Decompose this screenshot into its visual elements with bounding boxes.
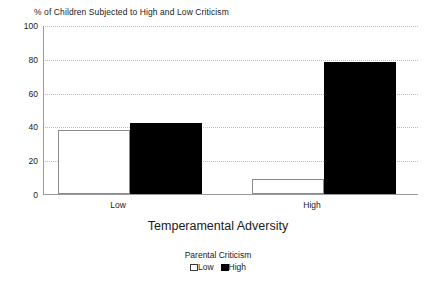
chart-title: % of Children Subjected to High and Low … bbox=[34, 7, 229, 17]
legend-swatch-low-icon bbox=[190, 264, 198, 271]
y-tick-label-40: 40 bbox=[8, 123, 38, 132]
gridline-100 bbox=[43, 26, 418, 27]
plot-area bbox=[43, 26, 418, 194]
x-tick-label-high: High bbox=[282, 200, 342, 210]
y-tick-label-0: 0 bbox=[8, 191, 38, 200]
legend-swatch-high-icon bbox=[221, 264, 229, 271]
legend-title: Parental Criticism bbox=[0, 250, 436, 261]
legend: Parental Criticism Low High bbox=[0, 250, 436, 273]
y-tick-label-60: 60 bbox=[8, 90, 38, 99]
chart-screenshot: % of Children Subjected to High and Low … bbox=[0, 0, 436, 290]
x-axis-line bbox=[43, 194, 418, 195]
bar-high-adversity-high-criticism bbox=[324, 62, 396, 194]
y-tick-label-100: 100 bbox=[8, 22, 38, 31]
bar-high-adversity-low-criticism bbox=[252, 179, 324, 194]
x-tick-label-low: Low bbox=[88, 200, 148, 210]
y-tick-label-80: 80 bbox=[8, 56, 38, 65]
legend-label-high: High bbox=[229, 262, 246, 273]
legend-item-low: Low bbox=[190, 262, 214, 273]
legend-label-low: Low bbox=[198, 262, 214, 273]
legend-entries: Low High bbox=[0, 262, 436, 273]
y-tick-label-20: 20 bbox=[8, 157, 38, 166]
bar-low-adversity-high-criticism bbox=[130, 123, 202, 194]
bar-low-adversity-low-criticism bbox=[58, 130, 130, 194]
y-axis-tick-labels: 100 80 60 40 20 0 bbox=[5, 26, 38, 195]
gridline-80 bbox=[43, 60, 418, 61]
y-axis-line bbox=[43, 26, 44, 195]
x-axis-title: Temperamental Adversity bbox=[0, 219, 436, 234]
legend-item-high: High bbox=[221, 262, 246, 273]
